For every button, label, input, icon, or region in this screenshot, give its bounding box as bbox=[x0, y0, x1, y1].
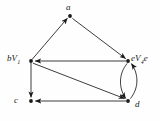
graph-figure: a bV1 eV4e c d bbox=[0, 0, 160, 121]
node-dot-b bbox=[29, 59, 33, 63]
node-dot-c bbox=[29, 99, 33, 103]
node-label-a-main: a bbox=[66, 2, 71, 12]
node-label-e-main: eV bbox=[131, 53, 141, 63]
node-label-d-main: d bbox=[135, 99, 140, 109]
edge-d-to-e-curve bbox=[130, 64, 137, 99]
node-dot-e bbox=[126, 59, 130, 63]
node-label-e: eV4e bbox=[131, 54, 148, 65]
node-dot-a bbox=[68, 14, 72, 18]
edge-a-to-e bbox=[72, 18, 125, 58]
edge-b-to-d bbox=[33, 63, 125, 98]
node-label-a: a bbox=[66, 3, 71, 12]
node-label-e-tail: e bbox=[144, 53, 148, 63]
node-label-d: d bbox=[135, 100, 140, 109]
edge-b-to-a bbox=[32, 18, 67, 59]
edge-e-to-d-curve bbox=[120, 63, 127, 98]
node-label-c: c bbox=[14, 96, 18, 105]
node-label-b-subscript: 1 bbox=[17, 59, 20, 65]
node-label-b: bV1 bbox=[7, 54, 20, 65]
node-label-c-main: c bbox=[14, 95, 18, 105]
node-dot-d bbox=[126, 99, 130, 103]
node-label-b-main: bV bbox=[7, 53, 17, 63]
